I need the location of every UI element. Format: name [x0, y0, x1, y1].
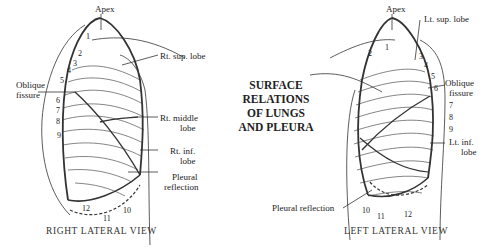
right-rib-3: 3	[73, 60, 77, 68]
right-rib-10: 10	[123, 207, 131, 215]
right-rib-2: 2	[78, 50, 82, 58]
title-line-4: AND PLEURA	[226, 120, 326, 134]
figure-title: SURFACE RELATIONS OF LUNGS AND PLEURA	[226, 78, 326, 134]
left-rib-5: 5	[431, 73, 435, 81]
right-rib-4: 4	[67, 67, 71, 75]
right-sup-lobe-label: Rt. sup. lobe	[160, 51, 206, 61]
right-oblique-label-1: Oblique	[16, 80, 45, 90]
right-rib-7: 7	[56, 107, 60, 115]
left-rib-11: 11	[377, 213, 385, 221]
right-inf-lobe-label-1: Rt. inf.	[170, 146, 195, 156]
right-rib-8: 8	[56, 118, 60, 126]
right-lateral-view-caption: RIGHT LATERAL VIEW	[46, 226, 157, 236]
left-sup-lobe-label: Lt. sup. lobe	[424, 14, 469, 24]
title-line-2: RELATIONS	[226, 92, 326, 106]
left-apex-label: Apex	[386, 4, 406, 14]
left-pleural-label: Pleural reflection	[272, 203, 334, 213]
right-apex-label: Apex	[95, 4, 115, 14]
right-rib-6: 6	[56, 97, 60, 105]
title-line-1: SURFACE	[226, 78, 326, 92]
right-rib-11: 11	[103, 215, 111, 223]
left-rib-4: 4	[424, 62, 428, 70]
right-rib-5: 5	[60, 77, 64, 85]
right-pleural-label-2: reflection	[164, 182, 198, 192]
left-inf-lobe-label-1: Lt. inf.	[449, 137, 474, 147]
title-line-3: OF LUNGS	[226, 106, 326, 120]
left-oblique-label-2: fissure	[449, 88, 473, 98]
left-inf-lobe-label-2: lobe	[461, 147, 477, 157]
left-lateral-view-caption: LEFT LATERAL VIEW	[344, 226, 448, 236]
left-rib-6: 6	[434, 85, 438, 93]
left-rib-12: 12	[404, 211, 412, 219]
left-rib-8: 8	[449, 114, 453, 122]
right-oblique-label-2: fissure	[16, 90, 40, 100]
right-rib-9: 9	[57, 132, 61, 140]
left-rib-1: 1	[385, 44, 389, 52]
right-inf-lobe-label-2: lobe	[180, 156, 196, 166]
left-oblique-label-1: Oblique	[445, 78, 474, 88]
left-rib-9: 9	[449, 126, 453, 134]
right-middle-lobe-label-1: Rt. middle	[160, 113, 198, 123]
right-rib-1: 1	[86, 33, 90, 41]
right-rib-12: 12	[82, 205, 90, 213]
left-rib-10: 10	[362, 207, 370, 215]
left-rib-7: 7	[449, 102, 453, 110]
left-rib-3: 3	[419, 53, 423, 61]
left-rib-2: 2	[368, 50, 372, 58]
right-middle-lobe-label-2: lobe	[180, 123, 196, 133]
right-pleural-label-1: Pleural	[172, 172, 198, 182]
